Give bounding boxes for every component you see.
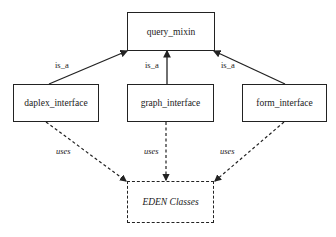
node-daplex-interface: daplex_interface [13,84,99,122]
node-query-mixin: query_mixin [127,12,215,51]
node-eden-classes: EDEN Classes [127,181,214,223]
edge-label-isa-graph: is_a [145,60,159,70]
node-label: daplex_interface [24,98,87,108]
node-graph-interface: graph_interface [127,84,214,122]
node-label: form_interface [256,98,312,108]
edge-label-isa-daplex: is_a [55,60,69,70]
node-form-interface: form_interface [242,84,327,122]
edge-label-uses-daplex: uses [56,146,71,156]
edge-label-uses-form: uses [220,146,235,156]
node-label: graph_interface [141,98,201,108]
node-label: EDEN Classes [142,197,198,207]
edge-label-isa-form: is_a [221,60,235,70]
node-label: query_mixin [147,27,196,37]
edge-label-uses-graph: uses [144,146,159,156]
